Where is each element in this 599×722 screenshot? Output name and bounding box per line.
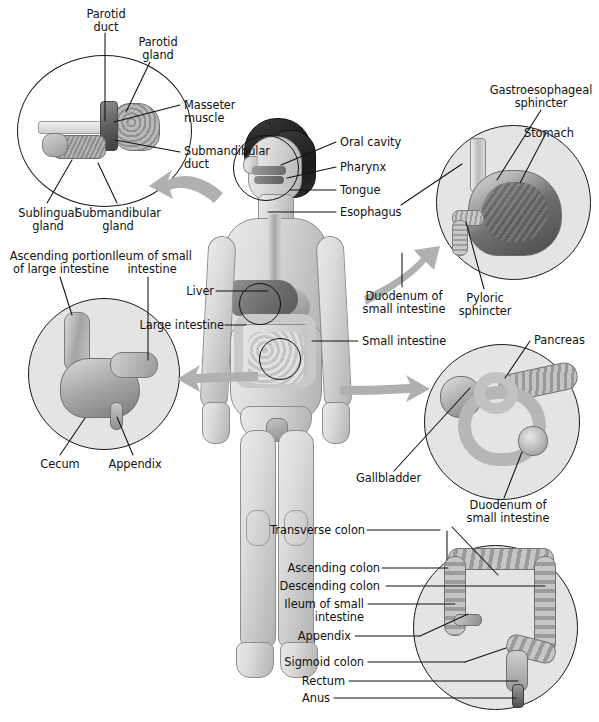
colon-art bbox=[420, 538, 576, 708]
label-masseter-muscle: Masseter muscle bbox=[184, 99, 264, 124]
caption-strip bbox=[0, 704, 599, 722]
label-sigmoid-colon: Sigmoid colon bbox=[270, 656, 364, 669]
label-rectum: Rectum bbox=[287, 675, 345, 688]
label-large-intestine: Large intestine bbox=[130, 319, 224, 332]
label-gastroesophageal-sphincter: Gastroesophageal sphincter bbox=[485, 84, 597, 109]
label-pyloric-sphincter: Pyloric sphincter bbox=[452, 292, 518, 317]
pancreas-art bbox=[440, 358, 576, 488]
label-submandibular-duct: Submandibular duct bbox=[184, 145, 280, 170]
label-anus: Anus bbox=[288, 692, 330, 705]
label-liver: Liver bbox=[156, 285, 214, 298]
label-cecum: Cecum bbox=[30, 458, 90, 471]
stomach-art bbox=[452, 136, 580, 272]
label-ileum-colon: Ileum of small intestine bbox=[272, 598, 364, 623]
label-pharynx: Pharynx bbox=[340, 161, 430, 174]
label-gallbladder: Gallbladder bbox=[356, 472, 436, 485]
label-duodenum-pancreas: Duodenum of small intestine bbox=[460, 499, 556, 524]
label-tongue: Tongue bbox=[340, 184, 430, 197]
digestive-system-figure: Parotid duct Parotid gland Masseter musc… bbox=[0, 0, 599, 722]
label-stomach: Stomach bbox=[524, 127, 594, 140]
label-oral-cavity: Oral cavity bbox=[340, 136, 430, 149]
label-submandibular-gland: Submandibular gland bbox=[68, 207, 168, 232]
label-parotid-gland: Parotid gland bbox=[124, 36, 192, 61]
label-ileum-cecum: Ileum of small intestine bbox=[110, 250, 194, 275]
label-esophagus: Esophagus bbox=[340, 206, 430, 219]
label-pancreas: Pancreas bbox=[534, 334, 598, 347]
callout-ring-duodenum bbox=[239, 283, 281, 325]
label-appendix-colon: Appendix bbox=[285, 630, 351, 643]
label-small-intestine: Small intestine bbox=[362, 335, 458, 348]
hand-left bbox=[202, 402, 230, 444]
label-ascending-portion: Ascending portion of large intestine bbox=[2, 250, 120, 275]
label-ascending-colon: Ascending colon bbox=[268, 562, 380, 575]
label-appendix-cecum: Appendix bbox=[104, 458, 166, 471]
foot-left bbox=[236, 642, 274, 678]
label-transverse-colon: Transverse colon bbox=[255, 524, 365, 537]
label-parotid-duct: Parotid duct bbox=[70, 8, 142, 33]
callout-ring-cecum bbox=[259, 338, 301, 380]
hand-right bbox=[322, 402, 350, 444]
label-descending-colon: Descending colon bbox=[262, 580, 380, 593]
label-duodenum-stomach: Duodenum of small intestine bbox=[356, 290, 452, 315]
salivary-art bbox=[34, 95, 174, 175]
